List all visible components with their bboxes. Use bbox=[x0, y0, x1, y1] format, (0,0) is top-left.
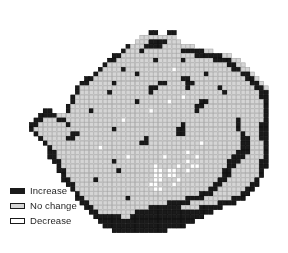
increase-swatch-icon bbox=[10, 188, 25, 194]
change-category-legend: Increase No change Decrease bbox=[10, 184, 77, 227]
legend-item-no-change: No change bbox=[10, 199, 77, 212]
no-change-swatch-icon bbox=[10, 203, 25, 209]
decrease-swatch-icon bbox=[10, 218, 25, 224]
legend-label-no-change: No change bbox=[30, 200, 77, 211]
legend-label-increase: Increase bbox=[30, 185, 67, 196]
legend-item-increase: Increase bbox=[10, 184, 77, 197]
legend-label-decrease: Decrease bbox=[30, 215, 71, 226]
legend-item-decrease: Decrease bbox=[10, 214, 77, 227]
grid-map-figure: Increase No change Decrease bbox=[0, 0, 288, 253]
